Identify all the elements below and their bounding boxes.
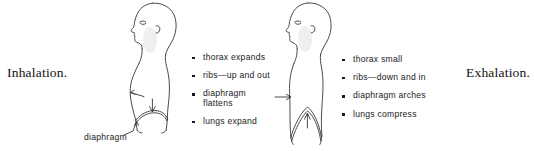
diaphragm-label: diaphragm xyxy=(84,132,127,142)
bullet-marker-icon xyxy=(192,57,195,60)
bullet-marker-icon xyxy=(342,113,345,116)
list-item: lungs compress xyxy=(342,110,452,120)
bullet-marker-icon xyxy=(342,77,345,80)
bullet-marker-icon xyxy=(192,93,195,96)
bullet-marker-icon xyxy=(342,59,345,62)
inhalation-caption: Inhalation. xyxy=(7,65,67,81)
list-item-label: ribs—up and out xyxy=(203,70,270,80)
list-item-label: lungs expand xyxy=(203,116,257,126)
exhalation-body-outline xyxy=(286,3,331,145)
list-item: lungs expand xyxy=(192,117,274,127)
exhalation-caption: Exhalation. xyxy=(466,65,530,81)
inhalation-bullet-list: thorax expands ribs—up and out diaphragm… xyxy=(192,53,274,135)
inhalation-chest-arrow xyxy=(131,90,144,96)
bullet-marker-icon xyxy=(192,121,195,124)
breathing-diagram-figure: Inhalation. Exhalation. thorax expands r… xyxy=(0,0,534,151)
list-item-label: diaphragm xyxy=(203,88,246,98)
list-item: ribs—down and in xyxy=(342,73,452,83)
list-item: diaphragm flattens xyxy=(192,89,274,108)
list-item-label: thorax expands xyxy=(203,52,265,62)
list-item-label-line2: flattens xyxy=(203,99,274,109)
bullet-marker-icon xyxy=(192,75,195,78)
list-item: ribs—up and out xyxy=(192,71,274,81)
inhalation-body-outline xyxy=(130,3,176,133)
exhalation-up-arrow xyxy=(305,113,311,128)
list-item: thorax small xyxy=(342,55,452,65)
list-item-label: diaphragm arches xyxy=(353,90,426,100)
list-item-label: thorax small xyxy=(353,54,402,64)
exhalation-bullet-list: thorax small ribs—down and in diaphragm … xyxy=(342,55,452,128)
list-item-label: ribs—down and in xyxy=(353,72,426,82)
list-item: thorax expands xyxy=(192,53,274,63)
bullet-marker-icon xyxy=(342,95,345,98)
inhalation-down-arrow xyxy=(150,99,156,112)
list-item-label: lungs compress xyxy=(353,109,417,119)
exhalation-chest-arrow xyxy=(275,94,291,99)
list-item: diaphragm arches xyxy=(342,91,452,101)
